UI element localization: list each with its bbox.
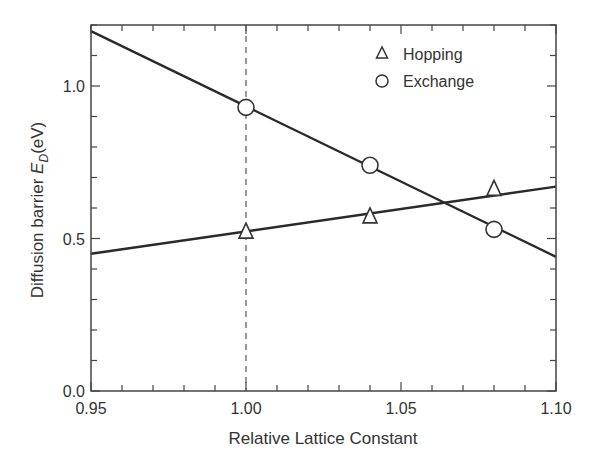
legend-marker-hopping	[377, 47, 388, 58]
data-markers	[238, 99, 502, 238]
plot-frame	[91, 25, 556, 391]
fit-line-exchange	[91, 31, 556, 257]
marker-exchange	[486, 221, 502, 237]
y-axis-title-unit: (eV)	[28, 122, 47, 154]
x-tick-label: 0.95	[75, 400, 106, 417]
fit-lines	[91, 31, 556, 257]
chart-svg: 0.951.001.051.100.00.51.0 Relative Latti…	[0, 0, 607, 463]
y-axis-title: Diffusion barrier ED(eV)	[28, 122, 51, 299]
y-axis-title-subscript: D	[37, 154, 51, 163]
y-axis-title-main: Diffusion barrier	[28, 174, 47, 298]
legend-marker-exchange	[376, 75, 388, 87]
y-tick-label: 0.0	[63, 383, 85, 400]
y-tick-label: 0.5	[63, 231, 85, 248]
legend: Hopping Exchange	[376, 46, 474, 90]
x-axis-title: Relative Lattice Constant	[229, 429, 418, 448]
x-tick-label: 1.00	[230, 400, 261, 417]
legend-label-hopping: Hopping	[403, 46, 463, 63]
y-axis-title-symbol: E	[28, 162, 47, 174]
legend-label-exchange: Exchange	[403, 73, 474, 90]
x-tick-label: 1.10	[540, 400, 571, 417]
x-tick-label: 1.05	[385, 400, 416, 417]
marker-exchange	[362, 157, 378, 173]
marker-exchange	[238, 99, 254, 115]
marker-hopping	[487, 180, 501, 195]
axis-ticks	[91, 25, 556, 391]
y-tick-label: 1.0	[63, 78, 85, 95]
fit-line-hopping	[91, 187, 556, 254]
